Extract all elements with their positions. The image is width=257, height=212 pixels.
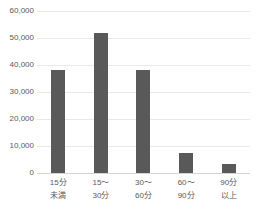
y-axis-tick-label: 10,000 — [0, 142, 34, 150]
x-axis-category-label: 90分以上 — [207, 176, 250, 210]
y-axis-tick-label: 40,000 — [0, 61, 34, 69]
bar — [51, 70, 65, 173]
x-axis-label-line2: 未満 — [37, 189, 80, 202]
bar — [222, 164, 236, 173]
y-axis-tick-label: 0 — [0, 169, 34, 177]
bar — [94, 33, 108, 173]
y-axis-tick-label: 30,000 — [0, 88, 34, 96]
x-axis-label-line1: 15〜 — [92, 178, 109, 187]
y-axis-tick-label: 50,000 — [0, 34, 34, 42]
x-axis-label-line1: 30〜 — [135, 178, 152, 187]
x-axis-category-label: 15〜30分 — [80, 176, 123, 210]
bar-slot — [122, 11, 165, 173]
x-axis-label-line1: 60〜 — [178, 178, 195, 187]
x-axis-label-line1: 15分 — [50, 178, 67, 187]
x-axis-label-line2: 以上 — [207, 189, 250, 202]
bar — [179, 153, 193, 173]
x-axis-label-line2: 30分 — [80, 189, 123, 202]
x-axis: 15分未満15〜30分30〜60分60〜90分90分以上 — [37, 176, 250, 210]
x-axis-category-label: 60〜90分 — [165, 176, 208, 210]
y-axis-tick-label: 60,000 — [0, 7, 34, 15]
y-axis: 010,00020,00030,00040,00050,00060,000 — [0, 0, 34, 212]
plot-area — [37, 11, 250, 173]
bar-series — [37, 11, 250, 173]
x-axis-label-line1: 90分 — [220, 178, 237, 187]
bar-slot — [80, 11, 123, 173]
axis-baseline — [37, 173, 250, 174]
bar-chart: 010,00020,00030,00040,00050,00060,000 15… — [0, 0, 257, 212]
y-axis-tick-label: 20,000 — [0, 115, 34, 123]
bar-slot — [165, 11, 208, 173]
x-axis-category-label: 15分未満 — [37, 176, 80, 210]
bar-slot — [207, 11, 250, 173]
bar — [136, 70, 150, 173]
x-axis-label-line2: 90分 — [165, 189, 208, 202]
x-axis-category-label: 30〜60分 — [122, 176, 165, 210]
bar-slot — [37, 11, 80, 173]
x-axis-label-line2: 60分 — [122, 189, 165, 202]
